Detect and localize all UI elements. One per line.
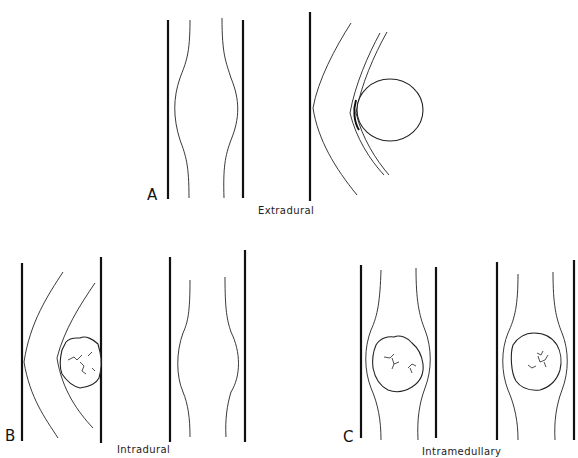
cord-right-edge <box>225 277 239 437</box>
cord-left-edge <box>24 272 63 438</box>
intramedullary-mass <box>373 336 424 392</box>
caption-extradural: Extradural <box>258 205 314 216</box>
intramedullary-mass-frontal <box>511 333 561 390</box>
panel-a-view-2 <box>310 12 423 201</box>
panel-label-c: C <box>343 428 353 446</box>
panel-c-view-1 <box>361 265 436 440</box>
panel-label-b: B <box>5 427 15 445</box>
extradural-mass <box>357 79 423 141</box>
caption-intramedullary: Intramedullary <box>422 446 501 457</box>
panel-a-view-1 <box>168 18 243 199</box>
spinal-tumor-diagram <box>0 0 578 458</box>
panel-b-view-1 <box>22 257 101 443</box>
cord-left-edge <box>178 280 190 437</box>
panel-c-view-2 <box>497 260 574 440</box>
panel-b-view-2 <box>170 250 245 442</box>
panel-label-a: A <box>147 186 157 204</box>
caption-intradural: Intradural <box>117 444 170 455</box>
cord-right-edge <box>222 18 238 198</box>
cord-left-edge <box>175 20 190 198</box>
